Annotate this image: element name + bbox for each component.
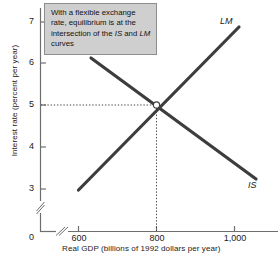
x-tick-label-800: 800 [138,233,176,243]
y-axis-title: Interest rate (percent per year) [10,26,19,176]
chart-figure: 7 6 5 4 3 0 600 800 1,000 Interest rate … [0,0,280,260]
x-tick-label-600: 600 [60,233,98,243]
is-curve [91,58,256,179]
y-tick-label-7: 7 [14,16,34,26]
annotation-text: With a flexible exchange rate, equilibri… [51,8,151,50]
equilibrium-point-marker [153,102,159,108]
annotation-box: With a flexible exchange rate, equilibri… [44,3,157,55]
is-curve-label: IS [248,180,257,190]
lm-curve-label: LM [220,16,233,26]
x-tick-label-1000: 1,000 [215,233,255,243]
y-tick-label-3: 3 [14,183,34,193]
x-axis-title: Real GDP (billions of 1992 dollars per y… [62,244,280,253]
origin-label: 0 [14,232,34,242]
